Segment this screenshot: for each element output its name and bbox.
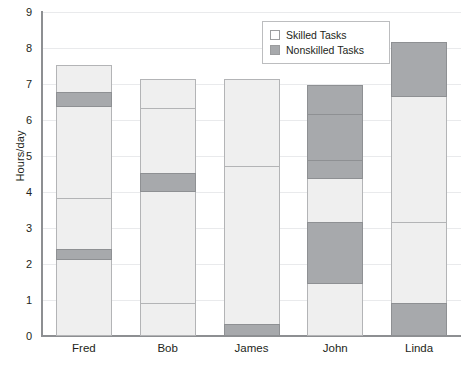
- y-axis-tick-label: 0: [0, 330, 32, 342]
- x-axis-tick-label-james: James: [207, 342, 297, 354]
- y-axis-tick-label: 9: [0, 6, 32, 18]
- bar-segment-nonskilled[interactable]: [307, 114, 363, 162]
- bar-segment-skilled[interactable]: [56, 106, 112, 199]
- bar-segment-nonskilled[interactable]: [140, 173, 196, 192]
- bar-james[interactable]: [224, 80, 280, 336]
- bar-segment-skilled[interactable]: [224, 79, 280, 166]
- bar-segment-nonskilled[interactable]: [56, 92, 112, 107]
- x-axis-tick-label-john: John: [290, 342, 380, 354]
- y-axis-tick-label: 4: [0, 186, 32, 198]
- bar-segment-nonskilled[interactable]: [56, 249, 112, 261]
- bar-segment-skilled[interactable]: [391, 96, 447, 223]
- bar-fred[interactable]: [56, 66, 112, 336]
- bars-layer: [42, 12, 461, 336]
- y-axis-tick-label: 5: [0, 150, 32, 162]
- bar-segment-skilled[interactable]: [307, 283, 363, 336]
- y-axis-tick-label: 3: [0, 222, 32, 234]
- bar-segment-skilled[interactable]: [391, 222, 447, 304]
- y-axis-tick-label: 6: [0, 114, 32, 126]
- y-axis-tick-label: 8: [0, 42, 32, 54]
- bar-segment-nonskilled[interactable]: [307, 222, 363, 284]
- bar-linda[interactable]: [391, 43, 447, 336]
- bar-segment-skilled[interactable]: [140, 108, 196, 174]
- bar-segment-nonskilled[interactable]: [224, 324, 280, 336]
- x-axis-tick-label-linda: Linda: [374, 342, 464, 354]
- chart-legend: Skilled TasksNonskilled Tasks: [262, 21, 390, 64]
- legend-swatch-nonskilled-icon: [270, 45, 280, 55]
- bar-segment-skilled[interactable]: [140, 79, 196, 109]
- legend-label: Skilled Tasks: [286, 29, 347, 41]
- bar-segment-skilled[interactable]: [56, 259, 112, 336]
- legend-item-skilled[interactable]: Skilled Tasks: [270, 27, 383, 42]
- bar-bob[interactable]: [140, 80, 196, 336]
- bar-segment-nonskilled[interactable]: [307, 85, 363, 115]
- legend-item-nonskilled[interactable]: Nonskilled Tasks: [270, 42, 383, 57]
- bar-segment-skilled[interactable]: [140, 303, 196, 336]
- bar-segment-skilled[interactable]: [140, 191, 196, 304]
- y-axis-tick-label: 1: [0, 294, 32, 306]
- bar-segment-skilled[interactable]: [224, 166, 280, 325]
- bar-segment-skilled[interactable]: [307, 178, 363, 222]
- bar-john[interactable]: [307, 86, 363, 336]
- legend-swatch-skilled-icon: [270, 30, 280, 40]
- x-axis-tick-label-fred: Fred: [39, 342, 129, 354]
- y-axis-tick-label: 7: [0, 78, 32, 90]
- bar-segment-nonskilled[interactable]: [307, 160, 363, 179]
- bar-segment-nonskilled[interactable]: [391, 42, 447, 97]
- x-axis-tick-label-bob: Bob: [123, 342, 213, 354]
- stacked-bar-chart: Hours/day 9876543210 FredBobJamesJohnLin…: [0, 0, 472, 371]
- bar-segment-skilled[interactable]: [56, 198, 112, 249]
- bar-segment-skilled[interactable]: [56, 65, 112, 93]
- legend-label: Nonskilled Tasks: [286, 44, 364, 56]
- y-axis-tick-label: 2: [0, 258, 32, 270]
- bar-segment-nonskilled[interactable]: [391, 303, 447, 336]
